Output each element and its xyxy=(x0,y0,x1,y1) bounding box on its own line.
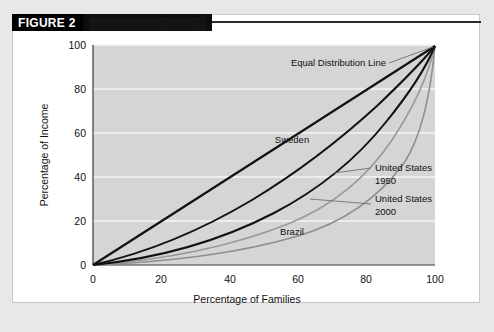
x-tick-80: 80 xyxy=(360,273,372,285)
label-sweden: Sweden xyxy=(275,134,309,145)
figure-number-tab: FIGURE 2 xyxy=(12,14,83,31)
label-united-states-1950-line2: 1950 xyxy=(375,175,396,186)
label-united-states-1950-line1: United States xyxy=(375,162,432,173)
y-tick-20: 20 xyxy=(74,215,86,227)
lorenz-curve-chart: 100 80 60 40 20 0 0 20 40 60 80 100 Perc… xyxy=(0,0,494,332)
x-tick-60: 60 xyxy=(292,273,304,285)
chart-svg: 100 80 60 40 20 0 0 20 40 60 80 100 Perc… xyxy=(0,0,494,332)
y-tick-100: 100 xyxy=(68,39,86,51)
figure-page: FIGURE 2 ███████████████ 100 80 60 40 20 xyxy=(0,0,494,332)
y-tick-60: 60 xyxy=(74,127,86,139)
label-united-states-2000-line1: United States xyxy=(375,193,432,204)
figure-header-rule xyxy=(165,21,481,23)
y-tick-80: 80 xyxy=(74,83,86,95)
label-brazil: Brazil xyxy=(280,226,304,237)
y-axis-title: Percentage of Income xyxy=(38,103,50,206)
label-equal-distribution-line: Equal Distribution Line xyxy=(291,57,386,68)
x-axis-title: Percentage of Families xyxy=(193,293,300,305)
x-tick-0: 0 xyxy=(90,273,96,285)
x-tick-40: 40 xyxy=(224,273,236,285)
x-tick-20: 20 xyxy=(155,273,167,285)
figure-title-redacted: ███████████████ xyxy=(83,14,212,31)
figure-header: FIGURE 2 ███████████████ xyxy=(12,14,212,31)
x-tick-100: 100 xyxy=(426,273,444,285)
y-tick-40: 40 xyxy=(74,171,86,183)
label-united-states-2000-line2: 2000 xyxy=(375,206,396,217)
y-tick-0: 0 xyxy=(80,259,86,271)
